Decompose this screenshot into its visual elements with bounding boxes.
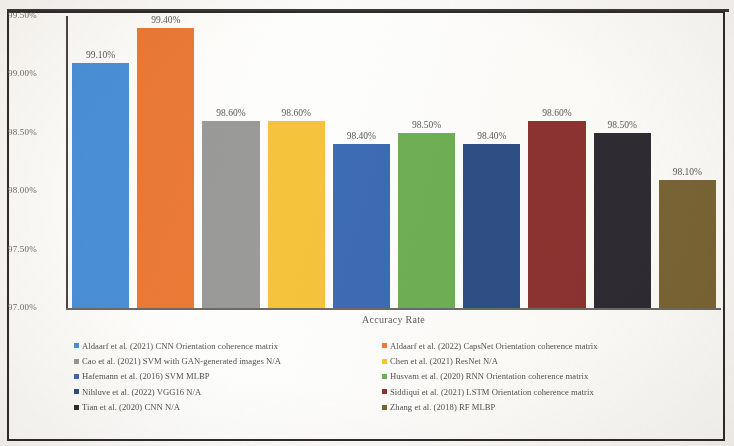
y-axis-tick-label: 98.50% [8,127,62,137]
bar-slot: 99.40% [133,16,198,308]
bar-value-label: 98.60% [254,108,337,118]
legend-item: Zhang et al. (2018) RF MLBP [382,400,714,415]
bar [137,28,194,308]
bar-slot: 98.50% [590,16,655,308]
legend-swatch-icon [382,405,387,410]
legend-swatch-icon [382,343,387,348]
legend-item-label: Tian et al. (2020) CNN N/A [82,402,180,412]
bar-value-label: 99.40% [124,15,207,25]
legend-item: Husvam et al. (2020) RNN Orientation coh… [382,369,714,384]
bar [268,121,325,308]
legend-swatch-icon [74,405,79,410]
y-axis-tick-label: 98.00% [8,185,62,195]
legend-item-label: Cao et al. (2021) SVM with GAN-generated… [82,356,281,366]
legend-item-label: Husvam et al. (2020) RNN Orientation coh… [390,371,588,381]
bar-slot: 98.50% [394,16,459,308]
legend-item: Tian et al. (2020) CNN N/A [74,400,378,415]
legend-swatch-icon [382,359,387,364]
bar-slot: 99.10% [68,16,133,308]
bar-slot: 98.60% [524,16,589,308]
bar [333,144,390,308]
bar [463,144,520,308]
legend-item-label: Aldaarf et al. (2021) CNN Orientation co… [82,341,278,351]
bar [594,133,651,308]
bar-value-label: 98.40% [320,131,403,141]
legend-item-label: Siddiqui et al. (2021) LSTM Orientation … [390,387,594,397]
y-axis-tick-label: 97.00% [8,302,62,312]
bar [659,180,716,308]
legend-item: Hafemann et al. (2016) SVM MLBP [74,369,378,384]
bar [398,133,455,308]
x-axis-line [66,308,721,310]
bar-value-label: 98.40% [450,131,533,141]
bar-value-label: 98.10% [646,167,729,177]
bar [72,63,129,308]
bar-value-label: 98.60% [515,108,598,118]
legend-swatch-icon [74,343,79,348]
legend-item: Chen et al. (2021) ResNet N/A [382,353,714,368]
legend-item: Cao et al. (2021) SVM with GAN-generated… [74,353,378,368]
bar-value-label: 98.50% [385,120,468,130]
legend-item-label: Hafemann et al. (2016) SVM MLBP [82,371,210,381]
bar-slot: 98.40% [459,16,524,308]
legend-item: Siddiqui et al. (2021) LSTM Orientation … [382,384,714,399]
legend-item-label: Zhang et al. (2018) RF MLBP [390,402,495,412]
y-axis-tick-label: 99.50% [8,10,62,20]
bar-value-label: 98.50% [580,120,663,130]
legend-item-label: Aldaarf et al. (2022) CapsNet Orientatio… [390,341,598,351]
legend-item: Aldaarf et al. (2021) CNN Orientation co… [74,338,378,353]
bar-series: 99.10%99.40%98.60%98.60%98.40%98.50%98.4… [68,16,720,308]
legend-swatch-icon [74,359,79,364]
y-axis-tick-label: 99.00% [8,68,62,78]
legend-swatch-icon [382,389,387,394]
bar-slot: 98.40% [329,16,394,308]
legend-swatch-icon [382,374,387,379]
legend-item-label: Chen et al. (2021) ResNet N/A [390,356,498,366]
legend-swatch-icon [74,389,79,394]
x-axis-title: Accuracy Rate [66,314,721,325]
y-axis-tick-label: 97.50% [8,244,62,254]
bar-value-label: 99.10% [59,50,142,60]
bar-slot: 98.60% [198,16,263,308]
legend-item: Aldaarf et al. (2022) CapsNet Orientatio… [382,338,714,353]
legend-item: Nihluve et al. (2022) VGG16 N/A [74,384,378,399]
bar [202,121,259,308]
legend-item-label: Nihluve et al. (2022) VGG16 N/A [82,387,201,397]
bar-slot: 98.10% [655,16,720,308]
chart-legend: Aldaarf et al. (2021) CNN Orientation co… [74,338,714,415]
legend-swatch-icon [74,374,79,379]
bar [528,121,585,308]
bar-slot: 98.60% [264,16,329,308]
